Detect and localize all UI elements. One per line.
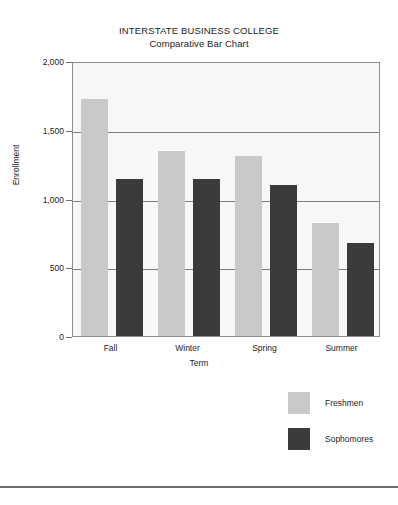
y-axis-tick-label: 2,000: [10, 57, 64, 67]
y-axis-tick-label: 1,000: [10, 195, 64, 205]
bar-spring-freshmen: [235, 156, 262, 336]
page-subtitle: Comparative Bar Chart: [0, 37, 398, 50]
y-axis-tick-mark: [66, 337, 72, 338]
bars-layer: [73, 63, 379, 336]
legend-label: Sophomores: [325, 434, 373, 444]
plot-area: [72, 62, 380, 337]
x-axis-tick-label: Spring: [225, 343, 305, 353]
chart-page: INTERSTATE BUSINESS COLLEGE Comparative …: [0, 0, 398, 505]
legend-item: Freshmen: [288, 392, 373, 414]
y-axis-title: Enrollment: [11, 105, 21, 225]
bar-summer-sophomores: [347, 243, 374, 336]
x-axis-title: Term: [0, 358, 398, 368]
bar-winter-sophomores: [193, 179, 220, 336]
y-axis-tick-label: 500: [10, 263, 64, 273]
chart-title-block: INTERSTATE BUSINESS COLLEGE Comparative …: [0, 24, 398, 50]
bottom-divider: [0, 486, 398, 488]
x-axis-tick-label: Winter: [148, 343, 228, 353]
legend-swatch-sophomores: [288, 428, 310, 450]
x-axis-tick-label: Fall: [71, 343, 151, 353]
legend-swatch-freshmen: [288, 392, 310, 414]
page-title: INTERSTATE BUSINESS COLLEGE: [0, 24, 398, 37]
y-axis-tick-label: 0: [10, 332, 64, 342]
bar-fall-freshmen: [81, 99, 108, 336]
bar-fall-sophomores: [116, 179, 143, 336]
x-axis-tick-label: Summer: [302, 343, 382, 353]
legend-item: Sophomores: [288, 428, 373, 450]
y-axis-tick-label: 1,500: [10, 126, 64, 136]
bar-summer-freshmen: [312, 223, 339, 336]
bar-winter-freshmen: [158, 151, 185, 336]
bar-spring-sophomores: [270, 185, 297, 336]
legend-label: Freshmen: [325, 398, 363, 408]
chart-legend: FreshmenSophomores: [288, 392, 373, 464]
